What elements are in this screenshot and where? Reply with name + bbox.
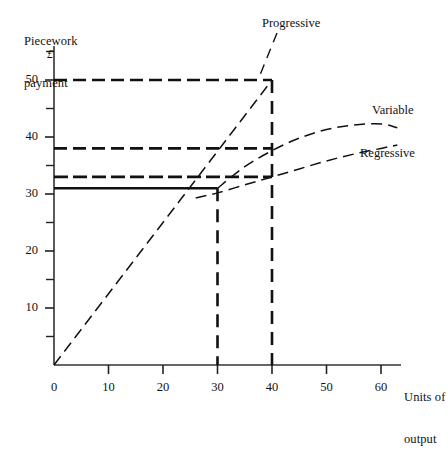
x-tick-label-60: 60	[368, 380, 394, 395]
series-progressive	[54, 80, 272, 365]
series-label-regressive: Regressive	[360, 146, 415, 161]
y-tick-label-20: 20	[12, 243, 38, 258]
series-curves	[54, 80, 397, 365]
x-axis-title-line1: Units of	[404, 390, 445, 404]
x-tick-label-40: 40	[259, 380, 285, 395]
x-axis-ticks	[109, 365, 382, 374]
series-label-variable: Variable	[372, 103, 414, 118]
y-tick-label-40: 40	[12, 129, 38, 144]
x-tick-label-50: 50	[314, 380, 340, 395]
x-tick-label-20: 20	[150, 380, 176, 395]
x-axis-title-line2: output	[404, 432, 445, 446]
y-axis-title-line1: Piecework	[24, 34, 78, 48]
y-tick-label-30: 30	[12, 186, 38, 201]
y-tick-label-10: 10	[12, 300, 38, 315]
axes-group	[54, 46, 401, 365]
x-tick-label-0: 0	[41, 380, 67, 395]
x-tick-label-30: 30	[205, 380, 231, 395]
series-label-progressive: Progressive	[262, 16, 320, 31]
y-axis-title: Piecework payment	[24, 6, 78, 118]
currency-unit-label: £	[47, 47, 53, 61]
y-tick-label-50: 50	[12, 72, 38, 87]
label-leader-lines	[258, 33, 277, 80]
progressive-leader-line	[258, 33, 277, 80]
step-level-lines	[54, 80, 272, 188]
x-tick-label-10: 10	[96, 380, 122, 395]
vertical-drop-lines	[218, 80, 273, 365]
x-axis-title: Units of output	[404, 362, 445, 450]
